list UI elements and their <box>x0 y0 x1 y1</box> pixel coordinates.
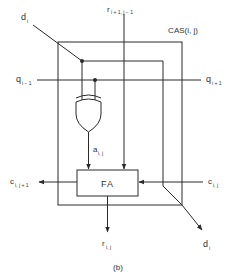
svg-text:d: d <box>21 12 26 22</box>
cas-cell-diagram: FA d i r i + 1, j − 1 CAS(i, j) q i − 1 … <box>0 0 234 280</box>
figure-caption: (b) <box>113 263 123 272</box>
svg-text:d: d <box>203 239 208 249</box>
svg-text:i + 1, j − 1: i + 1, j − 1 <box>111 9 133 15</box>
xor-gate-icon <box>76 95 101 132</box>
full-adder-label: FA <box>101 179 114 189</box>
cell-title: CAS(i, j) <box>168 26 198 35</box>
svg-text:i − 1: i − 1 <box>22 80 32 86</box>
c-out-label: c i, j + 1 <box>10 177 29 188</box>
svg-text:i: i <box>27 18 28 24</box>
svg-text:q: q <box>206 74 211 84</box>
svg-text:r: r <box>102 239 105 248</box>
svg-text:i: i <box>209 245 210 251</box>
svg-text:r: r <box>107 5 110 14</box>
svg-text:c: c <box>208 177 212 186</box>
q-output-label: q i + 1 <box>206 74 222 86</box>
d-output-label: d i <box>203 239 210 251</box>
svg-text:q: q <box>16 74 21 84</box>
c-in-label: c i, j <box>208 177 218 188</box>
svg-text:i, j: i, j <box>213 182 218 188</box>
svg-text:i, j: i, j <box>106 244 111 250</box>
q-input-label: q i − 1 <box>16 74 32 86</box>
d-input-label: d i <box>21 12 28 24</box>
a-label: a i, j <box>93 145 103 156</box>
svg-text:i, j: i, j <box>98 150 103 156</box>
r-output-label: r i, j <box>102 239 111 250</box>
svg-text:i, j + 1: i, j + 1 <box>15 182 29 188</box>
r-input-label: r i + 1, j − 1 <box>107 5 133 15</box>
svg-text:c: c <box>10 177 14 186</box>
svg-text:i + 1: i + 1 <box>212 80 222 86</box>
